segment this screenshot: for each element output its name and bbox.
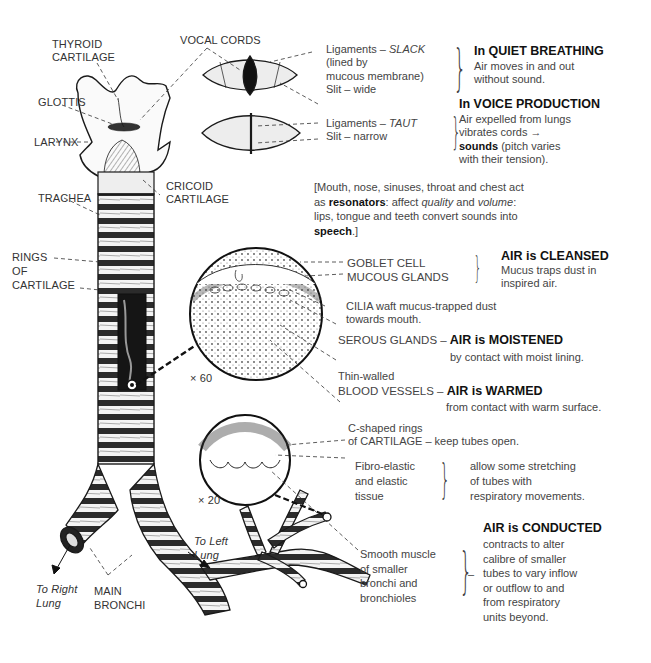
- label-line: CARTILAGE: [166, 193, 229, 206]
- text: as: [314, 196, 329, 208]
- label-to-right-lung: To Right Lung: [36, 582, 77, 610]
- magnified-tracheal-wall-x60: [136, 248, 322, 385]
- trachea-drawing: [98, 172, 154, 464]
- text: Ligaments –: [326, 43, 389, 55]
- resonators-note: [Mouth, nose, sinuses, throat and chest …: [314, 180, 524, 238]
- italic-term: quality: [421, 196, 453, 208]
- label-line: THYROID: [52, 38, 115, 51]
- label-line: CRICOID: [166, 180, 229, 193]
- label-vocal-cords: VOCAL CORDS: [180, 34, 261, 47]
- text-line: Fibro-elastic: [355, 459, 415, 474]
- taut-cord-annotation: Ligaments – TAUT Slit – narrow: [326, 117, 417, 144]
- text-line: of tubes with: [470, 474, 585, 489]
- text-line: and elastic: [355, 474, 415, 489]
- warmed-annotation: BLOOD VESSELS – AIR is WARMED: [338, 385, 543, 398]
- warmed-text: from contact with warm surface.: [446, 401, 601, 414]
- text: (pitch varies: [498, 140, 560, 152]
- label-line: Lung: [194, 548, 228, 562]
- heading-air-conducted: AIR is CONDUCTED: [483, 521, 602, 535]
- text-line: Air moves in and out: [474, 60, 574, 73]
- label-line: BRONCHI: [94, 598, 145, 612]
- text-line: of smaller: [360, 562, 436, 577]
- cleansing-structures: GOBLET CELL MUCOUS GLANDS: [347, 256, 449, 284]
- text-line: from respiratory: [483, 595, 577, 610]
- bold-term: speech: [314, 225, 352, 237]
- label-to-left-lung: To Left Lung: [194, 534, 228, 562]
- bold-term: resonators: [329, 196, 386, 208]
- quiet-breathing-text: Air moves in and out without sound.: [474, 60, 574, 87]
- elastic-tissue-text: allow some stretching of tubes with resp…: [470, 459, 585, 504]
- label-line: MAIN: [94, 584, 145, 598]
- slack-state: SLACK: [389, 43, 425, 55]
- text-line: with their tension).: [459, 153, 571, 166]
- text-line: without sound.: [474, 73, 574, 86]
- taut-state: TAUT: [389, 117, 417, 129]
- text-line: vibrates cords →: [459, 126, 571, 139]
- text-line: respiratory movements.: [470, 489, 585, 504]
- label-line: Ligaments – TAUT: [326, 117, 417, 130]
- text-line: [Mouth, nose, sinuses, throat and chest …: [314, 180, 524, 195]
- text-line: speech.]: [314, 224, 524, 239]
- label-line: To Left: [194, 534, 228, 548]
- label-glottis: GLOTTIS: [38, 96, 86, 109]
- text-line: sounds (pitch varies: [459, 140, 571, 153]
- slack-cord-annotation: Ligaments – SLACK (lined by mucous membr…: [326, 43, 425, 97]
- text: and: [453, 196, 477, 208]
- larynx-drawing: [77, 76, 170, 176]
- text: :: [513, 196, 516, 208]
- label-line: CARTILAGE: [52, 51, 115, 64]
- cartilage-rings-annotation: C-shaped rings of CARTILAGE – keep tubes…: [348, 422, 519, 449]
- heading-quiet-breathing: In QUIET BREATHING: [474, 44, 604, 58]
- elastic-tissue-label: Fibro-elastic and elastic tissue: [355, 459, 415, 504]
- text-line: tissue: [355, 489, 415, 504]
- text: Ligaments –: [326, 117, 389, 129]
- moistened-text: by contact with moist lining.: [450, 351, 584, 364]
- label-line: RINGS: [12, 250, 75, 264]
- label-trachea: TRACHEA: [38, 192, 91, 205]
- label-line: Lung: [36, 596, 77, 610]
- text-line: or outflow to and: [483, 581, 577, 596]
- label-line: CARTILAGE: [12, 278, 75, 292]
- text-line: CILIA waft mucus-trapped dust: [346, 300, 496, 313]
- label-cricoid-cartilage: CRICOID CARTILAGE: [166, 180, 229, 206]
- brace: }: [474, 250, 482, 286]
- label-rings-of-cartilage: RINGS OF CARTILAGE: [12, 250, 75, 292]
- label-magnification-x60: × 60: [190, 372, 212, 385]
- label-goblet-cell: GOBLET CELL: [347, 256, 449, 270]
- brace: }: [454, 38, 467, 98]
- vocal-cords-taut-drawing: [202, 113, 300, 154]
- conducted-text: contracts to alter calibre of smaller tu…: [483, 537, 577, 625]
- voice-production-text: Air expelled from lungs vibrates cords →…: [459, 113, 571, 167]
- smooth-muscle-label: Smooth muscle of smaller bronchi and bro…: [360, 547, 436, 605]
- text-line: calibre of smaller: [483, 552, 577, 567]
- bold-term: sounds: [459, 140, 498, 152]
- cilia-annotation: CILIA waft mucus-trapped dust towards mo…: [346, 300, 496, 327]
- text-line: bronchioles: [360, 591, 436, 606]
- text-line: contracts to alter: [483, 537, 577, 552]
- label-main-bronchi: MAIN BRONCHI: [94, 584, 145, 612]
- text-line: as resonators: affect quality and volume…: [314, 195, 524, 210]
- text-line: towards mouth.: [346, 313, 496, 326]
- text-line: inspired air.: [501, 277, 596, 290]
- label-blood-vessels: BLOOD VESSELS –: [338, 385, 447, 397]
- label-magnification-x20: × 20: [198, 494, 220, 507]
- text-line: bronchi and: [360, 576, 436, 591]
- text-line: Air expelled from lungs: [459, 113, 571, 126]
- label-line: (lined by: [326, 56, 425, 69]
- heading-air-cleansed: AIR is CLEANSED: [501, 249, 609, 263]
- text-line: lips, tongue and teeth convert sounds in…: [314, 209, 524, 224]
- cleansed-text: Mucus traps dust in inspired air.: [501, 264, 596, 291]
- label-line: Ligaments – SLACK: [326, 43, 425, 56]
- text-line: of CARTILAGE – keep tubes open.: [348, 435, 519, 448]
- label-line: OF: [12, 264, 75, 278]
- text-line: Mucus traps dust in: [501, 264, 596, 277]
- text-line: Smooth muscle: [360, 547, 436, 562]
- label-serous-glands: SEROUS GLANDS –: [338, 334, 450, 346]
- label-line: Slit – wide: [326, 83, 425, 96]
- brace: }: [440, 454, 450, 504]
- text-line: tubes to vary inflow: [483, 566, 577, 581]
- text: : affect: [386, 196, 422, 208]
- thin-walled-label: Thin-walled: [338, 370, 394, 383]
- text: .]: [352, 225, 358, 237]
- moistened-annotation: SEROUS GLANDS – AIR is MOISTENED: [338, 334, 563, 347]
